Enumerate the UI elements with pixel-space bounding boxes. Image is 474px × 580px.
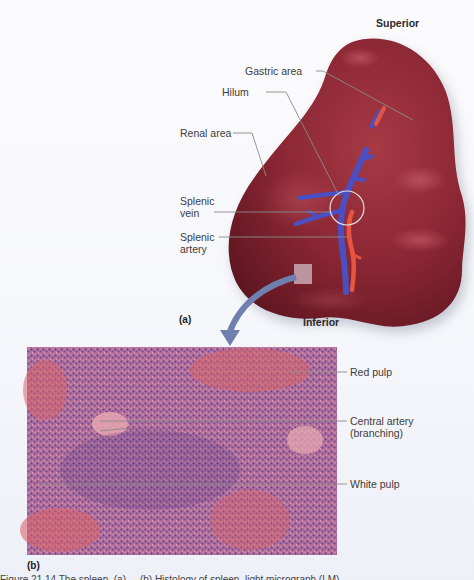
label-inferior: Inferior [303,316,339,328]
label-splenic-artery-line2: artery [180,243,214,255]
caption-text: Figure 21.14 The spleen. (a) ... (b) His… [0,574,474,580]
sample-region [294,264,312,284]
panel-label-a: (a) [179,314,191,325]
label-red-pulp: Red pulp [350,366,392,378]
panel-label-b: (b) [27,560,40,571]
label-splenic-vein-line2: vein [180,207,214,219]
label-hilum: Hilum [222,86,249,98]
label-splenic-vein-line1: Splenic [180,195,214,207]
label-splenic-vein: Splenic vein [180,195,214,219]
label-central-artery-line1: Central artery [350,415,414,427]
label-renal-area: Renal area [180,127,231,139]
label-gastric-area: Gastric area [245,65,302,77]
label-splenic-artery-line1: Splenic [180,231,214,243]
label-superior: Superior [376,17,419,29]
figure-caption-fragment: Figure 21.14 The spleen. (a) ... (b) His… [0,574,474,580]
label-white-pulp: White pulp [350,478,400,490]
label-splenic-artery: Splenic artery [180,231,214,255]
label-central-artery: Central artery (branching) [350,415,414,439]
histology-micrograph [20,347,337,555]
label-central-artery-line2: (branching) [350,427,414,439]
